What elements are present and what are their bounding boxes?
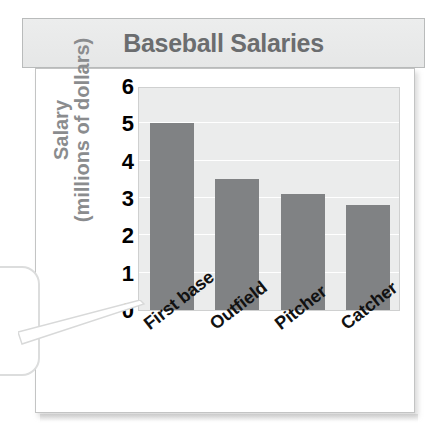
- baseball-salaries-figure: Baseball Salaries 0123456 Salary (millio…: [0, 0, 440, 427]
- y-tick-label: 5: [108, 113, 134, 135]
- frame-shadow: [40, 414, 418, 422]
- page-title: Baseball Salaries: [123, 29, 324, 58]
- y-tick-label: 6: [108, 76, 134, 98]
- y-tick-label: 1: [108, 263, 134, 285]
- y-tick-label: 3: [108, 188, 134, 210]
- y-axis-ticks: 0123456: [104, 87, 134, 311]
- plot-area: [138, 87, 400, 311]
- y-tick-label: 0: [108, 300, 134, 322]
- chart-title-box: Baseball Salaries: [22, 18, 425, 68]
- callout-bubble: [0, 266, 40, 376]
- y-tick-label: 4: [108, 151, 134, 173]
- y-tick-label: 2: [108, 225, 134, 247]
